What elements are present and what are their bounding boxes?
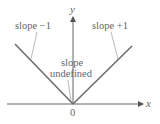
right-slope-leader	[111, 32, 118, 59]
absolute-value-graph: y x 0 slope −1 slope +1 slope undefined	[0, 0, 160, 124]
vertex-slope-label-line2: undefined	[50, 68, 93, 79]
vertex-slope-label-line1: slope	[61, 57, 84, 68]
y-axis-label: y	[69, 3, 75, 15]
right-slope-label: slope +1	[92, 20, 128, 31]
left-slope-leader	[31, 32, 37, 59]
x-axis-label: x	[145, 97, 151, 109]
origin-label: 0	[70, 107, 75, 118]
left-slope-label: slope −1	[15, 20, 51, 31]
